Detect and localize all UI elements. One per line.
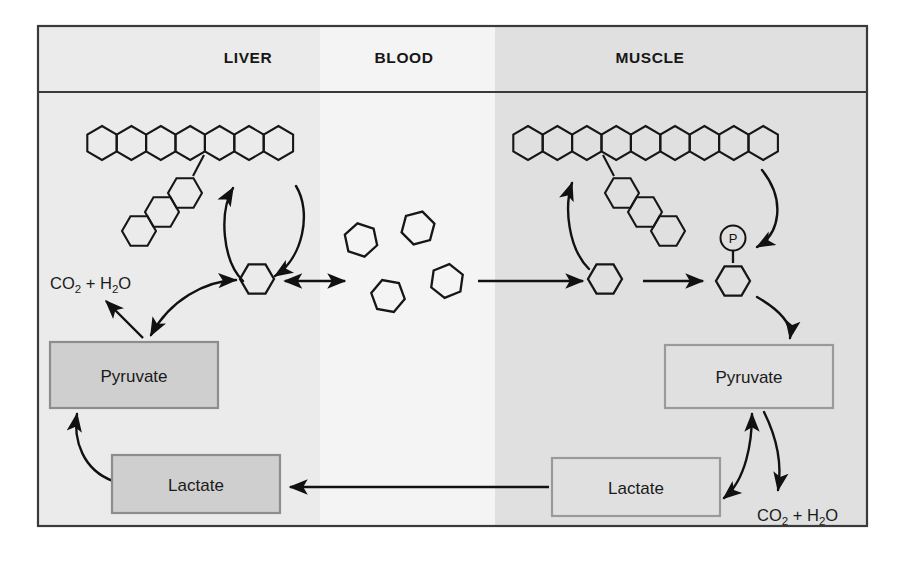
liver-pyruvate-box[interactable]: Pyruvate: [50, 342, 218, 408]
column-label-liver: LIVER: [224, 49, 273, 66]
muscle-co2-h2o-label: CO2 + H2O: [757, 506, 838, 527]
cori-cycle-figure: LIVER BLOOD MUSCLE: [0, 0, 902, 562]
phosphate-label: P: [729, 231, 738, 246]
liver-lactate-label: Lactate: [168, 476, 224, 495]
muscle-pyruvate-label: Pyruvate: [715, 368, 782, 387]
compartment-backgrounds: [38, 26, 867, 526]
diagram-canvas: LIVER BLOOD MUSCLE: [0, 0, 902, 562]
liver-pyruvate-label: Pyruvate: [100, 367, 167, 386]
column-label-muscle: MUSCLE: [615, 49, 684, 66]
liver-co2-h2o-label: CO2 + H2O: [50, 274, 131, 295]
muscle-band: [495, 26, 867, 526]
liver-formula-text: CO2 + H2O: [50, 274, 131, 295]
liver-lactate-box[interactable]: Lactate: [112, 455, 280, 513]
muscle-lactate-label: Lactate: [608, 479, 664, 498]
column-label-blood: BLOOD: [375, 49, 434, 66]
blood-band: [320, 26, 495, 526]
muscle-formula-text: CO2 + H2O: [757, 506, 838, 527]
